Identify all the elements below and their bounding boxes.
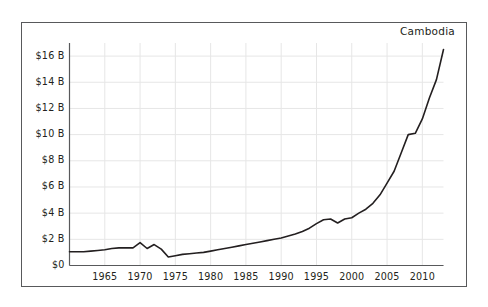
chart-figure: Cambodia $0$2 B$4 B$6 B$8 B$10 B$12 B$14…: [0, 0, 488, 307]
y-tick-label: $0: [52, 259, 65, 270]
plot-area: [0, 0, 488, 307]
x-tick-label: 1990: [261, 271, 301, 282]
x-tick-label: 1995: [296, 271, 336, 282]
y-tick-label: $14 B: [36, 76, 65, 87]
y-tick-label: $8 B: [42, 154, 65, 165]
x-tick-label: 1980: [191, 271, 231, 282]
y-tick-label: $2 B: [42, 233, 65, 244]
y-tick-label: $16 B: [36, 50, 65, 61]
x-tick-label: 1970: [120, 271, 160, 282]
y-tick-label: $6 B: [42, 180, 65, 191]
gridlines: [70, 43, 444, 266]
x-tick-label: 1985: [226, 271, 266, 282]
x-tick-label: 2010: [402, 271, 442, 282]
x-tick-label: 2005: [367, 271, 407, 282]
y-tick-label: $10 B: [36, 128, 65, 139]
y-tick-label: $4 B: [42, 207, 65, 218]
x-tick-label: 1975: [155, 271, 195, 282]
y-tick-label: $12 B: [36, 102, 65, 113]
x-tick-label: 1965: [85, 271, 125, 282]
x-tick-label: 2000: [332, 271, 372, 282]
